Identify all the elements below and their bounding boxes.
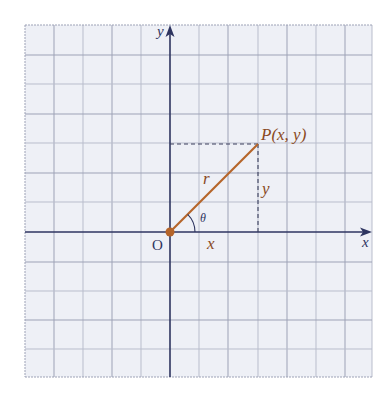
polar-coordinate-diagram: y x O P(x, y) r y x θ: [0, 0, 392, 396]
x-axis-label: x: [361, 234, 369, 250]
horizontal-leg-label: x: [206, 234, 215, 253]
vertical-leg-label: y: [260, 179, 270, 198]
y-axis-label: y: [155, 23, 164, 39]
point-label: P(x, y): [260, 125, 307, 144]
origin-point: [166, 228, 175, 237]
radius-label: r: [203, 169, 210, 188]
origin-label: O: [152, 237, 163, 253]
angle-label: θ: [200, 211, 206, 225]
